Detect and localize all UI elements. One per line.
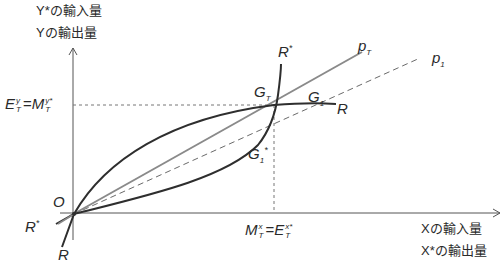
x-tick-M-scripts: xT (258, 223, 266, 238)
label-G-1-symbol: G (308, 88, 320, 105)
y-tick-M-sub: T (45, 106, 50, 114)
y-tick-M-sup: y* (45, 97, 52, 105)
label-G-1-star-symbol: G (248, 145, 260, 162)
label-R-star-top-symbol: R (278, 43, 289, 60)
x-tick-label: MxT=Ex*T (245, 222, 296, 238)
origin-point (72, 212, 76, 216)
label-G-1-star: G1* (248, 146, 268, 165)
y-tick-M: M (32, 95, 45, 112)
x-axis-label-export: X*の輸出量 (421, 244, 487, 257)
y-tick-E-sub: T (16, 106, 21, 114)
label-R-star-bottom: R* (25, 219, 39, 234)
x-axis-label-import: Xの輸入量 (421, 222, 482, 235)
label-G-1-star-sub: 1 (260, 156, 264, 165)
x-tick-equals: = (266, 221, 275, 238)
label-G-T-symbol: G (254, 83, 266, 100)
label-G-1-sub: 1 (320, 99, 324, 108)
y-tick-M-scripts: y*T (44, 97, 56, 112)
label-R-star-bottom-symbol: R (25, 218, 36, 235)
x-tick-E: E (274, 221, 284, 238)
y-tick-equals: = (23, 95, 32, 112)
ray-p1-dashed (74, 58, 420, 214)
y-tick-label: EyT=My*T (5, 96, 56, 112)
label-R-star-top: R* (278, 44, 292, 59)
x-tick-E-scripts: x*T (284, 223, 296, 238)
y-tick-E-sup: y (16, 97, 20, 105)
label-R-star-bottom-sup: * (36, 218, 40, 228)
label-G-1: G1 (308, 89, 324, 108)
label-G-1-star-sup: * (264, 145, 268, 155)
origin-label: O (53, 194, 65, 209)
label-p-1: p1 (432, 50, 445, 69)
label-R-star-top-sup: * (289, 43, 293, 53)
x-tick-E-sup: x* (285, 223, 292, 231)
x-tick-M-sub: T (259, 232, 264, 240)
y-tick-E: E (5, 95, 15, 112)
label-p-T: pT (358, 38, 371, 57)
y-axis-label-import: Y*の輸入量 (36, 4, 102, 17)
label-G-T-sub: T (266, 94, 271, 103)
x-tick-E-sub: T (285, 232, 290, 240)
y-axis-label-export: Yの輸出量 (36, 26, 97, 39)
label-p-1-sub: 1 (440, 60, 444, 69)
label-R-bottom: R (58, 247, 69, 262)
x-tick-M-sup: x (259, 223, 263, 231)
ray-pT (70, 52, 362, 216)
offer-curve-R-star (56, 64, 281, 224)
y-tick-E-scripts: yT (15, 97, 23, 112)
label-R-right: R (337, 101, 348, 116)
label-p-T-sub: T (366, 48, 371, 57)
label-G-T: GT (254, 84, 271, 103)
x-tick-M: M (245, 221, 258, 238)
